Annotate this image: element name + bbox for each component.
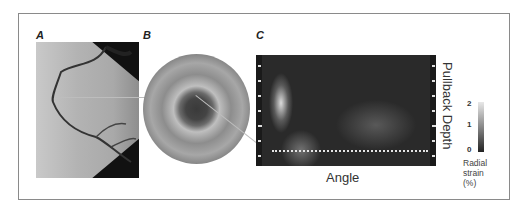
strain-map <box>256 55 436 166</box>
left-depth-ruler <box>256 55 262 166</box>
colorbar-tick-0: 0 <box>467 145 471 154</box>
colorbar-label-line: strain <box>463 168 487 178</box>
right-depth-ruler <box>430 55 436 166</box>
selected-depth-line <box>272 150 428 152</box>
ivus-image <box>143 54 250 164</box>
colorbar-label-line: (%) <box>463 178 487 188</box>
y-axis-label: Pullback Depth <box>440 62 455 149</box>
colorbar-tick-2: 2 <box>467 99 471 108</box>
colorbar <box>478 102 484 152</box>
panel-label-a: A <box>36 29 44 41</box>
panel-label-b: B <box>143 29 151 41</box>
colorbar-label-line: Radial <box>463 158 487 168</box>
colorbar-tick-1: 1 <box>467 120 471 129</box>
colorbar-label: Radial strain (%) <box>463 158 487 188</box>
angiogram-image <box>36 42 139 178</box>
vessel-tree-icon <box>36 42 139 178</box>
x-axis-label: Angle <box>326 170 359 185</box>
panel-label-c: C <box>256 29 264 41</box>
connector-line-a-b <box>54 97 148 98</box>
